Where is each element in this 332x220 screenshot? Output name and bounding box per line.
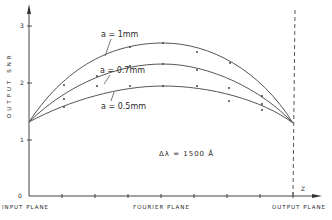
label-a-0.5mm: a = 0.5mm — [101, 102, 146, 111]
y-tick-0: 0 — [18, 192, 22, 199]
input-plane-label: INPUT PLANE — [2, 204, 49, 210]
curve-a-1mm — [29, 43, 293, 123]
fourier-plane-label: FOURIER PLANE — [133, 204, 190, 210]
delta-lambda-annotation: Δλ = 1500 Å — [159, 149, 214, 158]
x-axis: Z INPUT PLANE FOURIER PLANE OUTPUT PLANE — [2, 185, 326, 210]
points-a-0.7mm — [63, 63, 263, 105]
output-plane-marker — [293, 10, 295, 196]
points-a-1mm — [63, 42, 263, 97]
points-a-0.5mm — [63, 85, 263, 111]
label-a-1mm: a = 1mm — [101, 30, 139, 39]
y-tick-3: 3 — [20, 22, 24, 29]
y-tick-2: 2 — [20, 79, 24, 86]
snr-chart: 3 2 1 0 OUTPUT SNR Z INPUT PLANE FOURIER… — [0, 0, 332, 220]
y-axis: 3 2 1 0 OUTPUT SNR — [6, 4, 32, 199]
x-axis-var: Z — [301, 185, 305, 192]
output-plane-label: OUTPUT PLANE — [272, 204, 326, 210]
curve-a-0.7mm — [29, 64, 293, 123]
label-a-0.7mm: a = 0.7mm — [100, 66, 145, 75]
y-axis-label: OUTPUT SNR — [6, 52, 12, 118]
y-tick-1: 1 — [20, 136, 24, 143]
